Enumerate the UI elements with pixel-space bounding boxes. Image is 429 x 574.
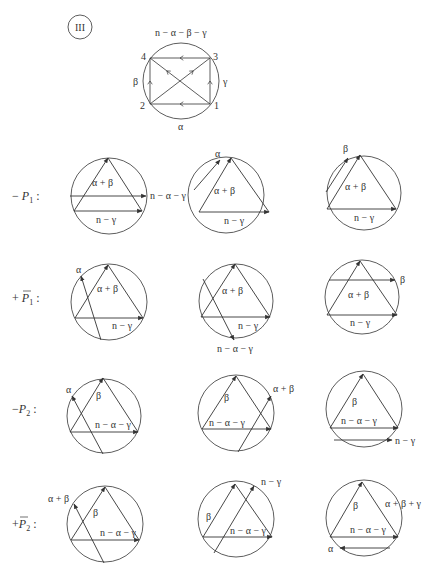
chord-diagram: βn − α − γn − γ — [198, 476, 282, 557]
side-label: α + β — [345, 181, 366, 192]
side-label: α + β — [92, 177, 113, 188]
base-label: n − γ — [112, 320, 133, 331]
chord-diagram: βn − α − γα + β — [48, 486, 143, 563]
chord-diagram: α + βn − γn − α − γ — [70, 158, 187, 234]
diagram-row-2: + P1 :α + βn − γαα + βn − γn − α − γα + … — [12, 260, 405, 354]
arc-label: α — [178, 121, 184, 132]
chord-circle — [67, 486, 143, 562]
diagram-row-1: − P1 :α + βn − γn − α − γα + βn − γαα + … — [12, 143, 401, 234]
base-label: n − α − γ — [350, 524, 387, 535]
vertex-label: 1 — [214, 100, 219, 111]
chord-diagram: α + βn − γα — [71, 264, 147, 340]
chord-beta — [327, 261, 360, 315]
base-label: n − γ — [224, 215, 245, 226]
side-label: β — [224, 392, 229, 403]
extra-chord-label: α + β — [273, 383, 294, 394]
chord-circle — [198, 375, 274, 451]
chord-gamma — [231, 158, 269, 212]
side-label: β — [96, 390, 101, 401]
base-label: n − γ — [96, 214, 117, 225]
side-label: β — [206, 511, 211, 522]
row-label: −P2 : — [12, 402, 36, 418]
chord-circle — [199, 264, 273, 338]
extra-chord — [214, 486, 254, 553]
chord-diagram: βn − α − γα + β — [198, 375, 294, 452]
vertex-label: 2 — [140, 100, 145, 111]
extra-chord-label: n − α − γ — [150, 190, 187, 201]
base-label: n − α − γ — [341, 415, 378, 426]
extra-chord-label: n − γ — [261, 476, 282, 487]
chord-gamma — [108, 158, 142, 211]
chord-circle — [326, 371, 402, 447]
extra-chord-label: α — [66, 384, 72, 395]
side-label: α + β — [348, 289, 369, 300]
chord-diagram: βn − α − γα — [326, 480, 402, 556]
chord-diagram: α + βn − γβ — [325, 260, 405, 334]
chord-diagram: α + βn − γβ — [326, 143, 401, 230]
chord-diagram-figure: III 1234n − α − β − γβγα − P1 :α + βn − … — [0, 0, 429, 574]
chord-circle — [71, 264, 147, 340]
side-label: β — [353, 500, 358, 511]
extra-chord-label: n − γ — [395, 435, 416, 446]
base-label: n − γ — [350, 317, 371, 328]
chord-label: α + β + γ — [385, 498, 422, 509]
extra-chord-label: α — [215, 148, 221, 159]
extra-chord-label: α + β — [48, 493, 69, 504]
chord-gamma — [360, 261, 397, 315]
chord-diagram: α + βn − γn − α − γ — [199, 264, 273, 354]
extra-chord-label: β — [400, 274, 405, 285]
row-label: − P1 : — [12, 189, 39, 205]
chord-diagram: βn − α − γα — [66, 378, 141, 454]
reference-diagram: 1234n − α − β − γβγα — [133, 27, 228, 132]
side-label: β — [93, 507, 98, 518]
vertex-label: 3 — [213, 51, 218, 62]
arc-label: γ — [222, 76, 228, 87]
extra-chord-label: α — [76, 264, 82, 275]
base-label: n − α − γ — [209, 417, 246, 428]
chord-diagram: α + βn − γα — [188, 148, 269, 233]
diagram-rows: − P1 :α + βn − γn − α − γα + βn − γαα + … — [12, 143, 422, 563]
arc-label: β — [133, 76, 138, 87]
case-badge: III — [68, 15, 92, 39]
base-label: n − γ — [354, 212, 375, 223]
chord-circle — [67, 379, 141, 453]
row-label: +P2 : — [12, 517, 36, 533]
extra-chord-label: n − α − γ — [217, 343, 254, 354]
reference-circle — [143, 43, 219, 119]
side-label: β — [352, 396, 357, 407]
side-label: α + β — [97, 283, 118, 294]
side-label: α + β — [222, 285, 243, 296]
base-label: n − γ — [238, 320, 259, 331]
base-label: n − α − γ — [100, 527, 137, 538]
vertex-label: 4 — [141, 51, 146, 62]
base-label: n − α − γ — [95, 419, 132, 430]
extra-chord-label: α — [328, 543, 334, 554]
base-label: n − α − γ — [230, 525, 267, 536]
side-label: α + β — [214, 185, 235, 196]
arc-label: n − α − β − γ — [155, 27, 207, 38]
chord-circle — [326, 480, 402, 556]
case-badge-label: III — [75, 22, 85, 33]
diagram-row-3: −P2 :βn − α − γαβn − α − γα + ββn − α − … — [12, 371, 416, 454]
extra-chord-label: β — [343, 143, 348, 154]
row-label: + P1 : — [12, 291, 39, 307]
diagram-row-4: +P2 :βn − α − γα + ββn − α − γn − γβn − … — [12, 476, 422, 563]
chord-diagram: βn − α − γn − γ — [326, 371, 416, 447]
